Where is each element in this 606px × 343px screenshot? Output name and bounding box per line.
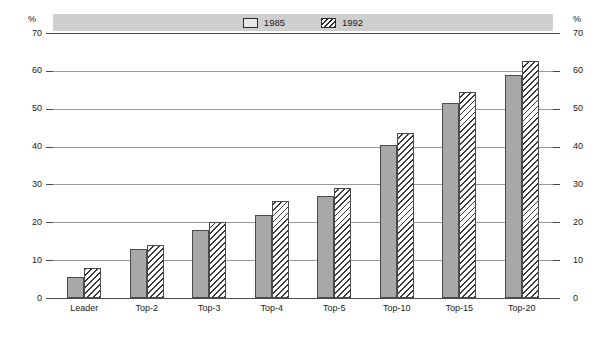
- y-tick-label-left: 40: [22, 142, 42, 151]
- legend-label-1985: 1985: [264, 18, 285, 28]
- legend-item-1985: 1985: [243, 18, 285, 28]
- y-tick-mark-left: [46, 147, 53, 148]
- legend-item-1992: 1992: [321, 18, 363, 28]
- y-tick-label-left: 60: [22, 66, 42, 75]
- bar-1985: [505, 75, 522, 298]
- y-tick-label-right: 0: [573, 294, 593, 303]
- y-tick-label-right: 30: [573, 180, 593, 189]
- y-tick-mark-right: [553, 222, 560, 223]
- bar-chart: % % 1985 1992 70706060505040403030202010…: [0, 0, 606, 343]
- x-category-label: Top-20: [487, 304, 557, 313]
- bar-1985: [192, 230, 209, 298]
- bar-1985: [130, 249, 147, 298]
- x-category-label: Leader: [49, 304, 119, 313]
- y-tick-label-right: 10: [573, 256, 593, 265]
- y-tick-mark-left: [46, 184, 53, 185]
- bar-group: [129, 33, 165, 298]
- y-tick-mark-left: [46, 260, 53, 261]
- bar-group: [254, 33, 290, 298]
- y-tick-label-left: 70: [22, 29, 42, 38]
- y-tick-mark-right: [553, 71, 560, 72]
- y-tick-label-left: 50: [22, 104, 42, 113]
- y-tick-mark-right: [553, 260, 560, 261]
- y-tick-label-right: 60: [573, 66, 593, 75]
- x-category-label: Top-4: [237, 304, 307, 313]
- y-tick-mark-left: [46, 222, 53, 223]
- x-category-label: Top-2: [112, 304, 182, 313]
- y-axis-unit-right: %: [573, 15, 581, 24]
- bar-1992: [147, 245, 164, 298]
- y-tick-mark-right: [553, 109, 560, 110]
- x-category-label: Top-15: [424, 304, 494, 313]
- bar-1992: [522, 61, 539, 298]
- y-tick-label-left: 0: [22, 294, 42, 303]
- y-tick-label-right: 50: [573, 104, 593, 113]
- y-tick-label-right: 70: [573, 29, 593, 38]
- y-tick-label-right: 40: [573, 142, 593, 151]
- gridline: [53, 298, 553, 299]
- y-tick-mark-left: [46, 109, 53, 110]
- x-category-label: Top-5: [299, 304, 369, 313]
- legend-swatch-1992-icon: [321, 18, 336, 28]
- bar-group: [441, 33, 477, 298]
- y-tick-mark-right: [553, 298, 560, 299]
- y-tick-label-right: 20: [573, 218, 593, 227]
- bar-group: [66, 33, 102, 298]
- y-tick-mark-left: [46, 298, 53, 299]
- bar-1992: [209, 222, 226, 298]
- bar-1985: [67, 277, 84, 298]
- bar-1992: [397, 133, 414, 298]
- bar-1992: [459, 92, 476, 298]
- plot-area: [53, 33, 553, 298]
- bar-group: [191, 33, 227, 298]
- y-tick-mark-right: [553, 184, 560, 185]
- bar-1992: [84, 268, 101, 298]
- y-tick-mark-right: [553, 147, 560, 148]
- y-tick-mark-left: [46, 33, 53, 34]
- legend: 1985 1992: [53, 14, 553, 31]
- bar-1985: [442, 103, 459, 298]
- bar-1992: [334, 188, 351, 298]
- y-axis-unit-left: %: [28, 15, 36, 24]
- legend-band: 1985 1992: [53, 14, 553, 31]
- bar-group: [504, 33, 540, 298]
- bar-1992: [272, 201, 289, 298]
- y-tick-mark-right: [553, 33, 560, 34]
- y-tick-label-left: 20: [22, 218, 42, 227]
- bar-1985: [255, 215, 272, 298]
- bar-group: [316, 33, 352, 298]
- legend-swatch-1985-icon: [243, 18, 258, 28]
- y-tick-mark-left: [46, 71, 53, 72]
- bar-1985: [380, 145, 397, 298]
- bars-layer: [53, 33, 553, 298]
- bar-group: [379, 33, 415, 298]
- legend-label-1992: 1992: [342, 18, 363, 28]
- y-tick-label-left: 30: [22, 180, 42, 189]
- x-category-label: Top-3: [174, 304, 244, 313]
- y-tick-label-left: 10: [22, 256, 42, 265]
- bar-1985: [317, 196, 334, 298]
- x-category-label: Top-10: [362, 304, 432, 313]
